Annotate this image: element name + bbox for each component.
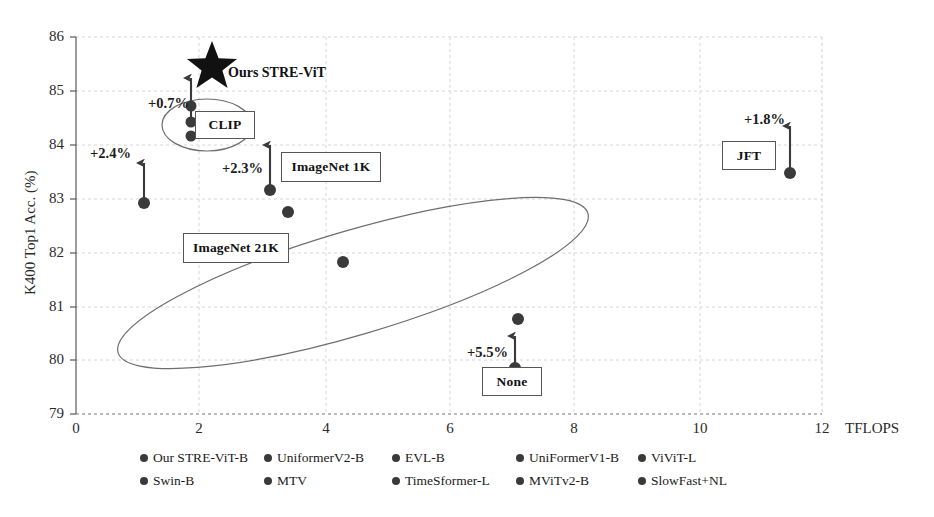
legend-item-vivit-l[interactable]: ViViT-L [638, 450, 696, 466]
legend-item-uniformerv1-b[interactable]: UniFormerV1-B [516, 450, 638, 466]
x-tick-0: 0 [56, 420, 96, 437]
y-axis-label: K400 Top1 Acc. (%) [22, 171, 39, 295]
legend-label: UniformerV2-B [277, 450, 364, 466]
legend-item-mvitv2-b[interactable]: MViTv2-B [516, 473, 638, 489]
chart-canvas [0, 0, 934, 517]
y-tick-85: 85 [30, 82, 64, 99]
y-tick-81: 81 [30, 298, 64, 315]
legend-dot-icon [392, 477, 400, 485]
legend-label: Our STRE-ViT-B [153, 450, 248, 466]
legend-dot-icon [140, 454, 148, 462]
x-axis-unit-label: TFLOPS [845, 420, 899, 437]
legend-item-our-stre-vit-b[interactable]: Our STRE-ViT-B [140, 450, 264, 466]
x-tick-6: 6 [430, 420, 470, 437]
y-tick-84: 84 [30, 136, 64, 153]
y-tick-86: 86 [30, 28, 64, 45]
ours-point-label: Ours STRE-ViT [228, 65, 326, 81]
delta-label-mtv: +2.3% [222, 160, 263, 177]
x-tick-8: 8 [554, 420, 594, 437]
callout-imagenet-21k[interactable]: ImageNet 21K [183, 233, 289, 263]
legend-dot-icon [516, 454, 524, 462]
legend-label: EVL-B [405, 450, 445, 466]
legend-dot-icon [516, 477, 524, 485]
y-tick-80: 80 [30, 351, 64, 368]
legend-label: TimeSformer-L [405, 473, 490, 489]
point-mtv [264, 184, 276, 196]
x-tick-10: 10 [680, 420, 720, 437]
callout-none[interactable]: None [482, 367, 542, 396]
axis-lines [76, 37, 822, 414]
legend-label: Swin-B [153, 473, 194, 489]
gridlines-horizontal [76, 37, 822, 414]
delta-label-vivit: +1.8% [744, 111, 785, 128]
callout-jft[interactable]: JFT [722, 141, 776, 170]
point-swin-b [138, 197, 150, 209]
legend-dot-icon [392, 454, 400, 462]
point-mvitv2-b [337, 256, 349, 268]
legend-item-evl-b[interactable]: EVL-B [392, 450, 516, 466]
point-slowfast-nl [512, 313, 524, 325]
gridlines-vertical [199, 37, 700, 414]
chart-figure: 86 85 84 83 82 81 80 79 K400 Top1 Acc. (… [0, 0, 934, 517]
callout-imagenet-1k[interactable]: ImageNet 1K [281, 152, 381, 182]
legend-item-mtv[interactable]: MTV [264, 473, 392, 489]
legend-label: ViViT-L [651, 450, 696, 466]
legend-row-1: Our STRE-ViT-B UniformerV2-B EVL-B UniFo… [140, 450, 696, 466]
callout-clip[interactable]: CLIP [195, 111, 255, 139]
y-tick-marks [70, 37, 76, 414]
delta-label-slowfast: +5.5% [467, 344, 508, 361]
legend-label: SlowFast+NL [651, 473, 727, 489]
delta-label-clip: +0.7% [148, 95, 189, 112]
legend-item-uniformerv2-b[interactable]: UniformerV2-B [264, 450, 392, 466]
legend-dot-icon [638, 454, 646, 462]
x-tick-2: 2 [179, 420, 219, 437]
legend-row-2: Swin-B MTV TimeSformer-L MViTv2-B SlowFa… [140, 473, 727, 489]
legend-item-swin-b[interactable]: Swin-B [140, 473, 264, 489]
point-timesformer-l [282, 206, 294, 218]
legend-dot-icon [140, 477, 148, 485]
legend-dot-icon [638, 477, 646, 485]
x-tick-4: 4 [306, 420, 346, 437]
delta-label-swin: +2.4% [90, 145, 131, 162]
legend-dot-icon [264, 454, 272, 462]
point-vivit-l [784, 167, 796, 179]
legend-item-slowfast-nl[interactable]: SlowFast+NL [638, 473, 727, 489]
legend-label: UniFormerV1-B [529, 450, 619, 466]
legend-label: MTV [277, 473, 307, 489]
legend-label: MViTv2-B [529, 473, 589, 489]
legend-dot-icon [264, 477, 272, 485]
x-tick-12: 12 [802, 420, 842, 437]
legend-item-timesformer-l[interactable]: TimeSformer-L [392, 473, 516, 489]
